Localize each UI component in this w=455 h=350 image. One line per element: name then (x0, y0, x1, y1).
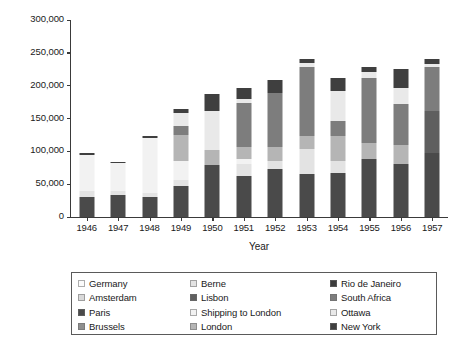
legend-swatch (78, 323, 85, 330)
bar-segment[interactable] (362, 78, 377, 143)
bar-group[interactable]: 1955 (354, 21, 385, 217)
legend-item[interactable]: London (190, 321, 330, 332)
bar-group[interactable]: 1951 (228, 21, 259, 217)
bar-segment[interactable] (362, 159, 377, 217)
bar-segment[interactable] (205, 111, 220, 150)
bar-segment[interactable] (268, 93, 283, 148)
legend-swatch (190, 280, 197, 287)
bar-stack[interactable] (268, 80, 283, 217)
bar-segment[interactable] (79, 197, 94, 217)
bar-group[interactable]: 1948 (134, 21, 165, 217)
bar-segment[interactable] (299, 67, 314, 136)
bar-segment[interactable] (205, 150, 220, 165)
legend-item[interactable]: Berne (190, 278, 330, 289)
chart-container: 1,000 Gold Swiss francs 050,000100,00015… (0, 0, 455, 350)
bar-segment[interactable] (331, 78, 346, 91)
x-tick-mark (181, 217, 182, 221)
bar-segment[interactable] (331, 91, 346, 121)
legend-item[interactable]: New York (330, 321, 430, 332)
bar-segment[interactable] (331, 121, 346, 136)
bar-segment[interactable] (393, 104, 408, 145)
bar-segment[interactable] (299, 174, 314, 217)
bar-segment[interactable] (393, 88, 408, 104)
legend-label: Ottawa (341, 307, 371, 318)
bar-group[interactable]: 1953 (291, 21, 322, 217)
bar-group[interactable]: 1946 (71, 21, 102, 217)
bar-segment[interactable] (268, 161, 283, 170)
bar-segment[interactable] (142, 138, 157, 193)
bar-segment[interactable] (393, 69, 408, 87)
bar-segment[interactable] (331, 136, 346, 162)
bar-segment[interactable] (236, 103, 251, 148)
bar-segment[interactable] (173, 113, 188, 125)
bar-segment[interactable] (331, 161, 346, 173)
bar-segment[interactable] (173, 135, 188, 161)
bar-segment[interactable] (268, 80, 283, 92)
bar-stack[interactable] (393, 69, 408, 217)
x-tick-mark (338, 217, 339, 221)
bar-segment[interactable] (268, 169, 283, 217)
bar-segment[interactable] (393, 145, 408, 164)
legend-item[interactable]: Lisbon (190, 292, 330, 303)
bars-layer: 1946194719481949195019511952195319541955… (71, 21, 448, 217)
bar-stack[interactable] (331, 78, 346, 217)
bar-segment[interactable] (173, 126, 188, 135)
legend-label: Brussels (89, 321, 125, 332)
bar-stack[interactable] (173, 109, 188, 217)
bar-segment[interactable] (236, 88, 251, 99)
legend-item[interactable]: Shipping to London (190, 307, 330, 318)
bar-segment[interactable] (393, 164, 408, 217)
legend-item[interactable]: Rio de Janeiro (330, 278, 430, 289)
legend-item[interactable]: Amsterdam (78, 292, 190, 303)
bar-segment[interactable] (173, 186, 188, 217)
bar-segment[interactable] (111, 163, 126, 191)
legend-swatch (190, 323, 197, 330)
bar-stack[interactable] (142, 136, 157, 217)
bar-segment[interactable] (236, 176, 251, 217)
bar-stack[interactable] (425, 59, 440, 217)
bar-group[interactable]: 1949 (165, 21, 196, 217)
bar-group[interactable]: 1952 (260, 21, 291, 217)
bar-segment[interactable] (362, 143, 377, 159)
bar-segment[interactable] (173, 161, 188, 180)
bar-stack[interactable] (79, 153, 94, 217)
bar-group[interactable]: 1947 (102, 21, 133, 217)
bar-segment[interactable] (425, 153, 440, 217)
bar-group[interactable]: 1956 (385, 21, 416, 217)
bar-stack[interactable] (236, 88, 251, 217)
legend-label: Paris (89, 307, 110, 318)
bar-segment[interactable] (142, 197, 157, 217)
bar-segment[interactable] (425, 111, 440, 153)
bar-stack[interactable] (362, 67, 377, 217)
x-tick-label: 1953 (296, 222, 316, 233)
bar-segment[interactable] (205, 165, 220, 217)
legend-item[interactable]: Brussels (78, 321, 190, 332)
legend-item[interactable]: Ottawa (330, 307, 430, 318)
x-tick-mark (150, 217, 151, 221)
legend-swatch (330, 280, 337, 287)
bar-segment[interactable] (79, 155, 94, 192)
bar-stack[interactable] (111, 162, 126, 217)
bar-group[interactable]: 1957 (417, 21, 448, 217)
bar-group[interactable]: 1950 (197, 21, 228, 217)
legend-item[interactable]: Germany (78, 278, 190, 289)
bar-segment[interactable] (268, 147, 283, 160)
legend-item[interactable]: Paris (78, 307, 190, 318)
bar-segment[interactable] (425, 67, 440, 111)
bar-segment[interactable] (236, 164, 251, 175)
legend-swatch (330, 323, 337, 330)
legend-item[interactable]: South Africa (330, 292, 430, 303)
bar-segment[interactable] (331, 173, 346, 217)
x-tick-mark (369, 217, 370, 221)
bar-stack[interactable] (205, 94, 220, 217)
bar-segment[interactable] (299, 149, 314, 173)
x-tick-label: 1951 (234, 222, 254, 233)
bar-segment[interactable] (205, 94, 220, 111)
bar-segment[interactable] (299, 136, 314, 149)
bar-group[interactable]: 1954 (322, 21, 353, 217)
bar-stack[interactable] (299, 59, 314, 217)
bar-segment[interactable] (236, 147, 251, 159)
bar-segment[interactable] (111, 195, 126, 217)
x-tick-label: 1949 (171, 222, 191, 233)
legend-label: South Africa (341, 292, 391, 303)
